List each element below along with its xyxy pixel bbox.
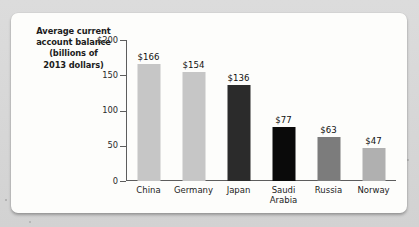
- x-category-label-line: Japan: [216, 185, 261, 195]
- x-category-label: Japan: [216, 185, 261, 195]
- bar-slot: $154: [171, 40, 216, 181]
- bar-value-label: $166: [138, 53, 160, 62]
- y-axis-title-line-3: (billions of: [21, 48, 126, 59]
- bar-chart: Average current account balance (billion…: [11, 13, 407, 213]
- bar-norway[interactable]: [362, 148, 385, 181]
- y-tick-label-wrap: 100: [64, 111, 126, 112]
- y-tick-label-wrap: 50: [64, 146, 126, 147]
- bars-group: $166$154$136$77$63$47: [126, 40, 396, 181]
- bar-saudi-arabia[interactable]: [272, 127, 295, 181]
- x-category-label-line: Arabia: [261, 195, 306, 205]
- x-category-label-line: Germany: [171, 185, 216, 195]
- x-category-label: Norway: [351, 185, 396, 195]
- bar-germany[interactable]: [182, 72, 205, 181]
- x-category-label: Russia: [306, 185, 351, 195]
- bar-value-label: $136: [228, 74, 250, 83]
- bar-slot: $136: [216, 40, 261, 181]
- x-category-label-line: Russia: [306, 185, 351, 195]
- y-tick-label-wrap: 150: [64, 75, 126, 76]
- bar-russia[interactable]: [317, 137, 340, 181]
- y-tick-label-wrap: 0: [64, 181, 126, 182]
- bar-slot: $63: [306, 40, 351, 181]
- y-tick-label: 50: [72, 141, 118, 149]
- bar-value-label: $154: [183, 61, 205, 70]
- bar-china[interactable]: [137, 64, 160, 181]
- bar-slot: $47: [351, 40, 396, 181]
- y-tick-label-wrap: $200: [64, 40, 126, 41]
- y-tick-label: 150: [72, 71, 118, 79]
- bar-slot: $77: [261, 40, 306, 181]
- bar-value-label: $77: [275, 116, 291, 125]
- x-category-label-line: Saudi: [261, 185, 306, 195]
- y-axis-title: Average current account balance (billion…: [21, 26, 126, 71]
- bar-value-label: $47: [365, 137, 381, 146]
- bar-japan[interactable]: [227, 85, 250, 181]
- y-tick-label: $200: [72, 36, 118, 44]
- chart-card: Average current account balance (billion…: [11, 13, 407, 213]
- x-category-label-line: Norway: [351, 185, 396, 195]
- bar-slot: $166: [126, 40, 171, 181]
- x-category-label: SaudiArabia: [261, 185, 306, 205]
- x-category-label: Germany: [171, 185, 216, 195]
- y-tick-label: 0: [72, 177, 118, 185]
- bar-value-label: $63: [320, 126, 336, 135]
- x-category-label-line: China: [126, 185, 171, 195]
- x-category-label: China: [126, 185, 171, 195]
- y-tick-label: 100: [72, 106, 118, 114]
